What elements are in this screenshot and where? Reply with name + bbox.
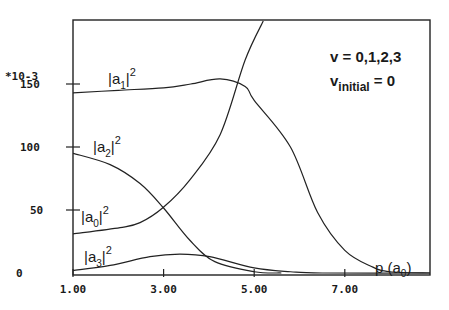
- y-tick-label: 50: [30, 204, 43, 217]
- series-line: [73, 21, 263, 234]
- curve-label: |a1|2: [108, 66, 136, 91]
- curve-label: |a2|2: [93, 134, 121, 159]
- series-line: [73, 79, 431, 273]
- x-tick-label: 1.00: [60, 283, 87, 296]
- x-tick-label: 3.00: [150, 283, 177, 296]
- y-multiplier-label: *10-3: [5, 70, 38, 83]
- x-tick-label: 5.00: [241, 283, 268, 296]
- curve-label: |a0|2: [81, 204, 109, 229]
- curve-labels: |a0|2|a1|2|a2|2|a3|2: [81, 66, 136, 269]
- legend-line-2: vinitial = 0: [330, 72, 395, 94]
- curve-label: |a3|2: [84, 244, 112, 269]
- chart-canvas: 1.003.005.007.00050100150 |a0|2|a1|2|a2|…: [0, 0, 449, 310]
- x-tick-label: 7.00: [332, 283, 359, 296]
- y-tick-label: 100: [20, 141, 40, 154]
- legend-line-1: v = 0,1,2,3: [330, 48, 401, 65]
- y-tick-label: 0: [16, 267, 23, 280]
- x-axis-label: p (a0): [375, 259, 411, 279]
